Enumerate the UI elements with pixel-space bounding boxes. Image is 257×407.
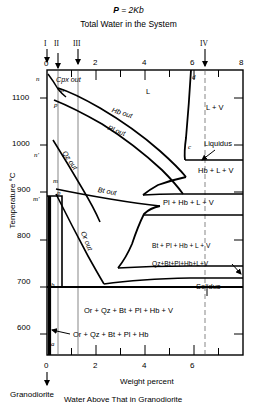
- phase-diagram-figure: P = 2Kb Total Water in the System I II I…: [0, 0, 257, 407]
- y-axis-left-ticks: [40, 98, 47, 334]
- curve-hb-out: [58, 88, 186, 177]
- boundary-qz-bt-band-top: [118, 266, 243, 268]
- y-axis-right-ticks: [234, 98, 243, 334]
- curve-liquidus-vapor-saturated: [185, 70, 191, 160]
- liquidus-pointer: [202, 150, 215, 160]
- x-axis-bottom-ticks: [72, 345, 219, 355]
- curve-qz-out: [53, 140, 100, 222]
- curve-pl-out: [54, 100, 183, 194]
- curve-hb-out-to-c: [143, 177, 186, 195]
- diagram-canvas: [0, 0, 257, 407]
- curve-or-out: [56, 194, 104, 284]
- curve-cpx-out: [48, 74, 66, 97]
- boundary-qz-bt-band-bottom: [104, 278, 243, 284]
- subsolidus-leader: [52, 330, 70, 334]
- boundary-pl-hb-l-v-top: [143, 194, 243, 195]
- isopleth-arrows: [47, 49, 205, 68]
- x-axis-top-ticks: [72, 70, 219, 80]
- curve-bt-out: [56, 189, 160, 206]
